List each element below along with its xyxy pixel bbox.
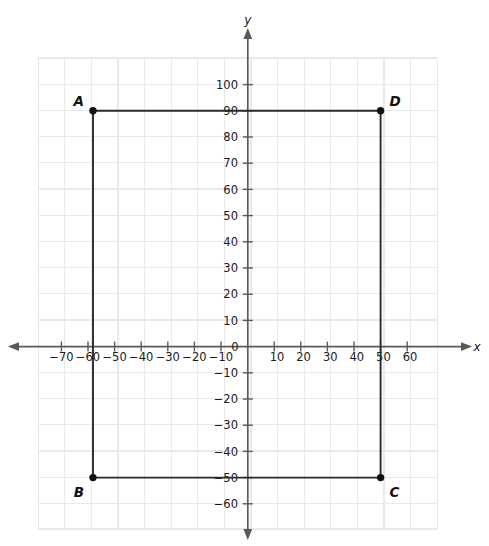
x-tick-label: −30 (156, 350, 180, 364)
y-tick-label: 30 (223, 261, 238, 275)
y-tick-label: 20 (223, 287, 238, 301)
y-tick-label: −60 (214, 497, 238, 511)
y-axis-arrow-up (243, 28, 252, 39)
graph-canvas: −70 −60 −50 −40 −30 −20 −10 10 20 30 40 … (0, 0, 489, 546)
x-tick-label: 60 (403, 350, 418, 364)
x-tick-label: 30 (323, 350, 338, 364)
x-tick-label: 10 (270, 350, 285, 364)
x-tick-label: 40 (349, 350, 364, 364)
y-tick-label: 80 (223, 130, 238, 144)
vertex-point-a (89, 107, 96, 114)
x-tick-label: −60 (76, 350, 100, 364)
vertex-point-b (89, 474, 96, 481)
y-tick-label: 50 (223, 209, 238, 223)
y-tick-label: 100 (216, 78, 238, 92)
y-tick-label: −30 (214, 418, 238, 432)
x-tick-label: 20 (296, 350, 311, 364)
vertex-label-d: D (390, 93, 401, 109)
y-axis-arrow-down (243, 529, 252, 540)
origin-label: 0 (231, 340, 238, 354)
x-tick-label: 50 (376, 350, 391, 364)
x-tick-label: −40 (129, 350, 153, 364)
x-tick-label: −10 (209, 350, 233, 364)
y-tick-label: −20 (214, 392, 238, 406)
x-axis-label: x (472, 340, 481, 354)
y-tick-label: 70 (223, 156, 238, 170)
x-tick-label: −50 (102, 350, 126, 364)
vertex-label-b: B (74, 484, 84, 500)
x-axis-arrow-right (461, 342, 472, 351)
vertex-label-c: C (390, 484, 400, 500)
x-tick-label: −70 (49, 350, 73, 364)
y-tick-label: 10 (223, 314, 238, 328)
x-tick-label: −20 (182, 350, 206, 364)
x-axis-arrow-left (8, 342, 19, 351)
vertex-label-a: A (73, 93, 84, 109)
vertex-point-d (377, 107, 384, 114)
y-axis-tick-labels: 100 90 80 70 60 50 40 30 20 10 −10 −20 −… (214, 78, 238, 511)
y-axis-label: y (243, 13, 252, 27)
coordinate-plane-figure: −70 −60 −50 −40 −30 −20 −10 10 20 30 40 … (0, 0, 489, 546)
y-tick-label: 60 (223, 183, 238, 197)
y-tick-label: −40 (214, 445, 238, 459)
y-tick-label: 40 (223, 235, 238, 249)
y-tick-label: −10 (214, 366, 238, 380)
vertex-point-c (377, 474, 384, 481)
